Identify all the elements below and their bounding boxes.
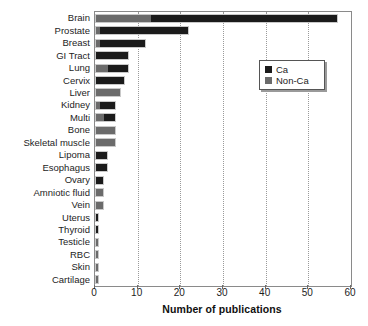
bar-segment-ca <box>151 15 337 22</box>
bar <box>95 14 338 23</box>
category-label: Skin <box>0 262 90 271</box>
x-tick-label: 50 <box>302 287 313 298</box>
category-label: Kidney <box>0 100 90 109</box>
bar-segment-ca <box>96 177 103 184</box>
bar-segment-ca <box>96 77 124 84</box>
x-tick-label: 60 <box>344 287 355 298</box>
category-label: Breast <box>0 38 90 47</box>
bar-row <box>95 263 351 272</box>
x-axis-title: Number of publications <box>94 303 350 315</box>
x-tick-label: 20 <box>174 287 185 298</box>
bar <box>95 138 116 147</box>
bar-segment-ca <box>108 65 128 72</box>
bar-row <box>95 26 351 35</box>
bar-segment-non-ca <box>96 239 98 246</box>
bar-row <box>95 39 351 48</box>
bar <box>95 51 129 60</box>
bar <box>95 39 146 48</box>
bar <box>95 225 99 234</box>
category-label: Lipoma <box>0 150 90 159</box>
bar <box>95 113 116 122</box>
category-label: Prostate <box>0 26 90 35</box>
bar-segment-ca <box>100 40 145 47</box>
bar <box>95 250 99 259</box>
legend-swatch-non-ca <box>265 77 272 84</box>
bar-segment-non-ca <box>96 15 151 22</box>
publications-bar-chart: BrainProstateBreastGI TractLungCervixLiv… <box>0 0 368 326</box>
bar <box>95 163 108 172</box>
bar <box>95 238 99 247</box>
bar <box>95 76 125 85</box>
category-label: Testicle <box>0 237 90 246</box>
bar <box>95 201 104 210</box>
bar-row <box>95 176 351 185</box>
bar-row <box>95 151 351 160</box>
category-label: Liver <box>0 88 90 97</box>
bar-row <box>95 238 351 247</box>
bar-row <box>95 275 351 284</box>
x-tick-label: 10 <box>131 287 142 298</box>
bar-segment-ca <box>96 164 107 171</box>
x-tick-label: 40 <box>259 287 270 298</box>
bar-row <box>95 138 351 147</box>
bar <box>95 151 108 160</box>
bar-row <box>95 51 351 60</box>
category-label: Amniotic fluid <box>0 188 90 197</box>
bar-row <box>95 163 351 172</box>
bar-segment-non-ca <box>96 65 108 72</box>
category-label: Brain <box>0 13 90 22</box>
bar <box>95 101 116 110</box>
bar <box>95 263 99 272</box>
bar <box>95 126 116 135</box>
bar <box>95 88 121 97</box>
legend-item-non-ca: Non-Ca <box>265 75 320 86</box>
bar-row <box>95 14 351 23</box>
bar-segment-non-ca <box>96 114 104 121</box>
legend: Ca Non-Ca <box>259 60 325 90</box>
category-label: Uterus <box>0 213 90 222</box>
bar-row <box>95 225 351 234</box>
plot-area <box>94 11 352 287</box>
category-axis-labels: BrainProstateBreastGI TractLungCervixLiv… <box>0 11 90 285</box>
bar-segment-non-ca <box>96 202 103 209</box>
legend-item-ca: Ca <box>265 64 320 75</box>
bar-row <box>95 213 351 222</box>
bar-segment-non-ca <box>96 127 115 134</box>
category-label: Esophagus <box>0 163 90 172</box>
bar-segment-non-ca <box>96 251 98 258</box>
bar-rows <box>95 12 351 286</box>
bar-segment-non-ca <box>96 89 120 96</box>
bar-segment-ca <box>104 114 116 121</box>
bar-segment-non-ca <box>96 139 115 146</box>
category-label: Bone <box>0 125 90 134</box>
legend-label-ca: Ca <box>276 64 288 75</box>
bar-segment-non-ca <box>96 189 103 196</box>
bar-segment-non-ca <box>96 276 98 283</box>
x-axis-tick-labels: 0102030405060 <box>94 287 350 301</box>
bar <box>95 64 129 73</box>
bar-row <box>95 101 351 110</box>
category-label: RBC <box>0 250 90 259</box>
category-label: Ovary <box>0 175 90 184</box>
bar-segment-ca <box>100 27 188 34</box>
bar <box>95 213 99 222</box>
x-tick-label: 0 <box>91 287 97 298</box>
category-label: Multi <box>0 113 90 122</box>
category-label: GI Tract <box>0 51 90 60</box>
bar-segment-non-ca <box>96 264 98 271</box>
bar-segment-ca <box>100 102 115 109</box>
x-tick-label: 30 <box>216 287 227 298</box>
category-label: Cervix <box>0 76 90 85</box>
bar <box>95 275 99 284</box>
bar-segment-ca <box>96 214 98 221</box>
bar-row <box>95 188 351 197</box>
bar-segment-ca <box>96 226 98 233</box>
category-label: Vein <box>0 200 90 209</box>
bar-row <box>95 201 351 210</box>
bar <box>95 176 104 185</box>
category-label: Cartilage <box>0 275 90 284</box>
bar-row <box>95 250 351 259</box>
bar <box>95 26 189 35</box>
bar-row <box>95 126 351 135</box>
legend-label-non-ca: Non-Ca <box>276 75 309 86</box>
